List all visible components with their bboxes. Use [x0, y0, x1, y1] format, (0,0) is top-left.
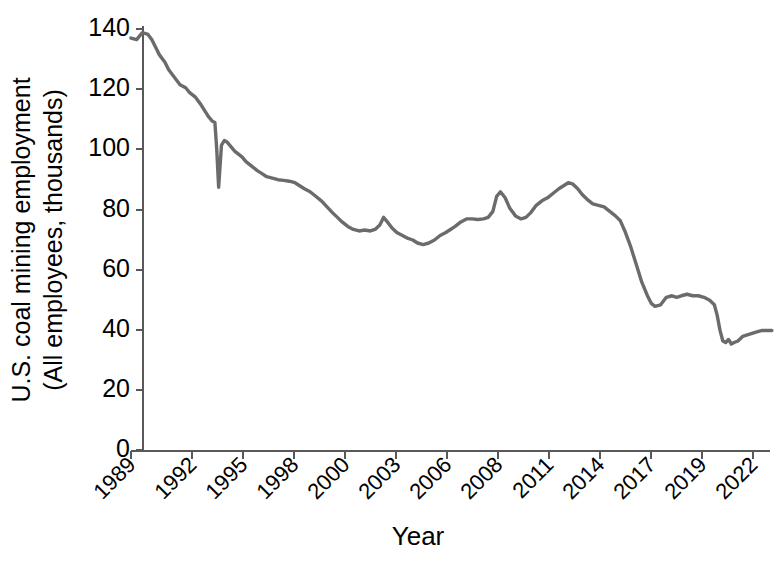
x-tick-label-1989: 1989	[88, 452, 140, 504]
x-tick-label-2008: 2008	[455, 452, 507, 504]
x-axis-tick-labels: 1989 1992 1995 1998 2000 2003 2006 2008 …	[88, 452, 762, 504]
y-axis-ticks: 140 120 100 80 60 40 20 0	[88, 13, 143, 462]
y-tick-label-80: 80	[102, 194, 130, 222]
y-tick-label-100: 100	[88, 133, 130, 161]
chart-svg: U.S. coal mining employment (All employe…	[0, 0, 776, 573]
x-tick-label-2006: 2006	[404, 452, 456, 504]
y-tick-label-20: 20	[102, 374, 130, 402]
x-tick-label-1998: 1998	[251, 452, 303, 504]
chart-figure: U.S. coal mining employment (All employe…	[0, 0, 776, 573]
x-tick-label-2019: 2019	[659, 452, 711, 504]
x-tick-label-2011: 2011	[507, 452, 558, 503]
x-tick-label-2000: 2000	[302, 452, 354, 504]
y-axis-title-line2: (All employees, thousands)	[39, 89, 67, 391]
x-tick-label-1995: 1995	[200, 452, 252, 504]
y-tick-label-120: 120	[88, 73, 130, 101]
x-tick-label-2022: 2022	[710, 452, 762, 504]
data-series-line	[131, 33, 772, 344]
y-tick-label-60: 60	[102, 254, 130, 282]
y-tick-label-140: 140	[88, 13, 130, 41]
x-tick-label-1992: 1992	[149, 452, 201, 504]
x-tick-label-2014: 2014	[557, 452, 609, 504]
x-tick-label-2017: 2017	[608, 452, 660, 504]
y-tick-label-40: 40	[102, 314, 130, 342]
y-axis-title-line1: U.S. coal mining employment	[7, 77, 35, 402]
x-axis-title: Year	[392, 521, 445, 551]
x-tick-label-2003: 2003	[353, 452, 405, 504]
